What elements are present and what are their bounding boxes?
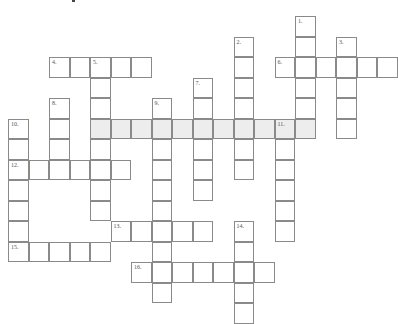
crossword-cell[interactable]: 3. [336, 37, 357, 58]
crossword-cell[interactable]: 9. [152, 98, 173, 119]
crossword-cell[interactable] [90, 160, 111, 181]
clue-number: 3. [339, 39, 344, 46]
crossword-cell[interactable]: 1. [295, 16, 316, 37]
crossword-cell[interactable] [377, 57, 398, 78]
crossword-cell-shaded[interactable] [213, 119, 234, 140]
crossword-cell-shaded[interactable] [295, 119, 316, 140]
crossword-cell[interactable] [70, 160, 91, 181]
crossword-cell[interactable] [275, 139, 296, 160]
crossword-cell[interactable]: 13. [111, 221, 132, 242]
crossword-cell[interactable] [336, 57, 357, 78]
clue-number: 2. [237, 39, 242, 46]
crossword-cell[interactable] [275, 160, 296, 181]
crossword-cell-shaded[interactable] [90, 119, 111, 140]
crossword-cell[interactable] [152, 221, 173, 242]
crossword-cell[interactable]: 16. [131, 262, 152, 283]
crossword-cell[interactable]: 8. [49, 98, 70, 119]
crossword-cell-shaded[interactable] [234, 119, 255, 140]
crossword-cell[interactable] [29, 160, 50, 181]
clue-number: 16. [134, 264, 142, 271]
crossword-cell[interactable] [111, 160, 132, 181]
crossword-cell[interactable] [193, 160, 214, 181]
crossword-cell[interactable]: 12. [8, 160, 29, 181]
crossword-cell[interactable] [234, 78, 255, 99]
crossword-cell[interactable] [336, 98, 357, 119]
crossword-cell[interactable] [111, 57, 132, 78]
crossword-cell[interactable] [90, 180, 111, 201]
crossword-cell[interactable] [152, 262, 173, 283]
crossword-cell[interactable] [234, 57, 255, 78]
crossword-cell[interactable] [70, 242, 91, 263]
crossword-cell[interactable]: 14. [234, 221, 255, 242]
crossword-cell[interactable] [172, 262, 193, 283]
crossword-cell[interactable] [295, 98, 316, 119]
crossword-cell[interactable] [234, 283, 255, 304]
crossword-cell[interactable] [49, 119, 70, 140]
crossword-cell[interactable] [234, 242, 255, 263]
crossword-cell[interactable]: 5. [90, 57, 111, 78]
crossword-cell[interactable] [8, 180, 29, 201]
crossword-cell[interactable] [49, 242, 70, 263]
crossword-cell-shaded[interactable] [152, 119, 173, 140]
crossword-cell-shaded[interactable]: 11. [275, 119, 296, 140]
crossword-cell-shaded[interactable] [172, 119, 193, 140]
crossword-cell[interactable] [90, 98, 111, 119]
crossword-cell[interactable] [234, 303, 255, 324]
crossword-cell[interactable] [90, 201, 111, 222]
crossword-cell[interactable] [275, 221, 296, 242]
crossword-cell[interactable] [295, 37, 316, 58]
crossword-cell[interactable] [193, 180, 214, 201]
crossword-cell[interactable]: 7. [193, 78, 214, 99]
crossword-cell[interactable] [49, 160, 70, 181]
crossword-cell[interactable] [49, 139, 70, 160]
crossword-cell[interactable] [70, 57, 91, 78]
crossword-cell-shaded[interactable] [111, 119, 132, 140]
crossword-cell[interactable] [193, 139, 214, 160]
clue-number: 1. [298, 18, 303, 25]
crossword-cell[interactable] [152, 139, 173, 160]
crossword-cell[interactable]: 4. [49, 57, 70, 78]
clue-number: 15. [11, 244, 19, 251]
crossword-cell[interactable] [152, 201, 173, 222]
crossword-cell-shaded[interactable] [193, 119, 214, 140]
crossword-cell[interactable] [131, 57, 152, 78]
crossword-cell[interactable] [131, 221, 152, 242]
crossword-cell[interactable] [152, 283, 173, 304]
crossword-cell[interactable] [8, 201, 29, 222]
crossword-cell[interactable] [336, 78, 357, 99]
crossword-cell[interactable] [90, 78, 111, 99]
crossword-cell[interactable]: 2. [234, 37, 255, 58]
crossword-cell[interactable]: 15. [8, 242, 29, 263]
crossword-cell[interactable] [172, 221, 193, 242]
crossword-cell[interactable] [275, 180, 296, 201]
crossword-cell[interactable] [90, 242, 111, 263]
crossword-cell[interactable] [295, 78, 316, 99]
crossword-cell[interactable] [213, 262, 234, 283]
crossword-cell[interactable] [254, 262, 275, 283]
crossword-cell[interactable] [193, 221, 214, 242]
crossword-cell[interactable] [336, 119, 357, 140]
crossword-cell[interactable] [152, 242, 173, 263]
crossword-cell[interactable]: 6. [275, 57, 296, 78]
crossword-cell[interactable] [234, 139, 255, 160]
crossword-cell[interactable] [295, 57, 316, 78]
crossword-cell[interactable] [234, 160, 255, 181]
crossword-cell[interactable] [152, 180, 173, 201]
crossword-cell[interactable] [357, 57, 378, 78]
crossword-cell-shaded[interactable] [254, 119, 275, 140]
crossword-cell[interactable] [234, 98, 255, 119]
crossword-cell[interactable] [193, 262, 214, 283]
crossword-cell[interactable] [275, 201, 296, 222]
crossword-cell[interactable] [8, 221, 29, 242]
crossword-cell[interactable]: 10. [8, 119, 29, 140]
crossword-cell[interactable] [152, 160, 173, 181]
crossword-cell[interactable] [90, 139, 111, 160]
clue-number: 12. [11, 162, 19, 169]
crossword-cell-shaded[interactable] [131, 119, 152, 140]
crossword-cell[interactable] [316, 57, 337, 78]
crossword-cell[interactable] [193, 98, 214, 119]
crossword-cell[interactable] [8, 139, 29, 160]
crossword-cell[interactable] [29, 242, 50, 263]
crossword-cell[interactable] [234, 262, 255, 283]
